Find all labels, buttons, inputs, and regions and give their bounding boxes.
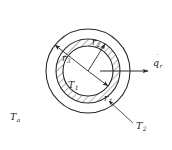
diagram-canvas: r1 r2 r3 T1 T2 Ta ˙ qr [0,0,172,150]
thermal-conduction-diagram: r1 r2 r3 T1 T2 Ta ˙ qr [0,0,172,150]
